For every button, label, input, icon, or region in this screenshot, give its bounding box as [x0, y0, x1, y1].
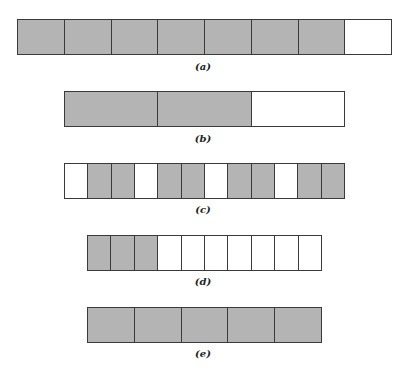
empty-cell — [251, 92, 344, 126]
shaded-cell — [227, 164, 250, 198]
shaded-cell — [204, 20, 251, 54]
strip-label-e: (e) — [195, 348, 211, 359]
shaded-cell — [88, 236, 110, 270]
fraction-strip-d — [87, 235, 322, 271]
empty-cell — [274, 164, 297, 198]
shaded-cell — [274, 308, 321, 342]
empty-cell — [227, 236, 250, 270]
shaded-cell — [181, 308, 228, 342]
empty-cell — [251, 236, 274, 270]
shaded-cell — [65, 92, 157, 126]
fraction-strip-e — [87, 307, 322, 343]
shaded-cell — [251, 164, 274, 198]
empty-cell — [204, 236, 227, 270]
shaded-cell — [18, 20, 64, 54]
fraction-strip-c — [64, 163, 345, 199]
empty-cell — [344, 20, 391, 54]
strip-label-b: (b) — [195, 133, 211, 144]
shaded-cell — [134, 308, 181, 342]
shaded-cell — [111, 164, 134, 198]
empty-cell — [65, 164, 87, 198]
shaded-cell — [227, 308, 274, 342]
shaded-cell — [87, 164, 110, 198]
shaded-cell — [157, 20, 204, 54]
strip-label-a: (a) — [195, 61, 211, 72]
empty-cell — [157, 236, 180, 270]
fraction-strip-a — [17, 19, 392, 55]
fraction-strip-b — [64, 91, 345, 127]
shaded-cell — [298, 20, 345, 54]
shaded-cell — [251, 20, 298, 54]
empty-cell — [134, 164, 157, 198]
empty-cell — [181, 236, 204, 270]
strip-label-c: (c) — [195, 204, 211, 215]
shaded-cell — [64, 20, 111, 54]
shaded-cell — [134, 236, 157, 270]
shaded-cell — [157, 164, 180, 198]
shaded-cell — [88, 308, 134, 342]
shaded-cell — [110, 236, 133, 270]
shaded-cell — [111, 20, 158, 54]
shaded-cell — [157, 92, 250, 126]
shaded-cell — [321, 164, 344, 198]
empty-cell — [204, 164, 227, 198]
empty-cell — [298, 236, 321, 270]
shaded-cell — [297, 164, 320, 198]
empty-cell — [274, 236, 297, 270]
shaded-cell — [181, 164, 204, 198]
strip-label-d: (d) — [195, 276, 211, 287]
